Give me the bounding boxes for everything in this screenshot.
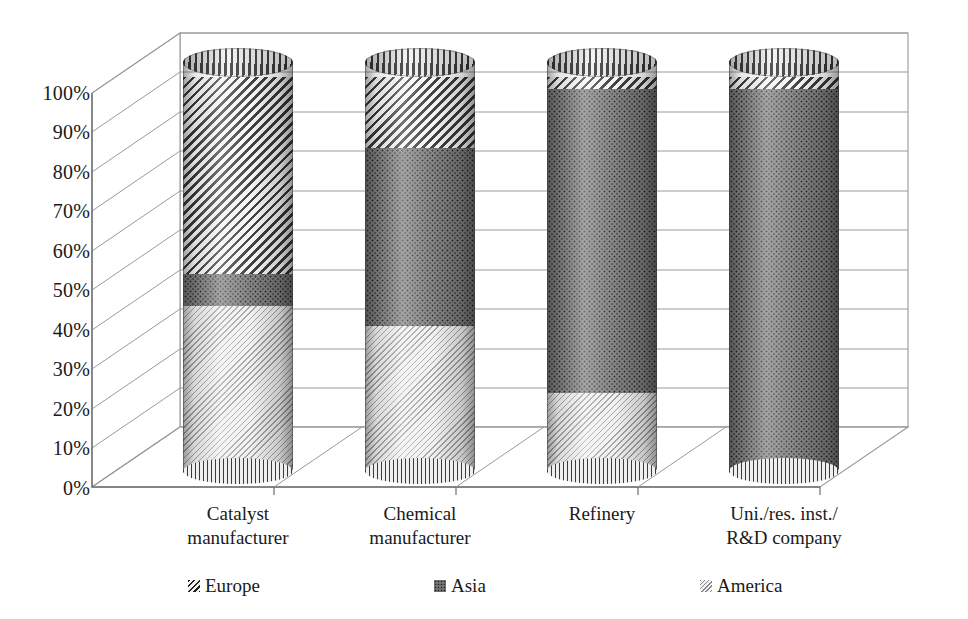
segment-catalyst-europe xyxy=(183,77,293,274)
y-tick-50: 50% xyxy=(18,280,90,300)
segment-chemical-asia xyxy=(365,148,475,326)
cylinder-top-cap-europe xyxy=(183,48,293,77)
cylinder-top-cap-europe xyxy=(547,48,657,77)
bar-chemical-manufacturer[interactable] xyxy=(365,62,475,472)
legend-label-asia: Asia xyxy=(451,575,486,597)
chart-legend: Europe Asia America xyxy=(0,572,968,604)
x-label-line1: Uni./res. inst./ xyxy=(656,502,912,526)
y-tick-70: 70% xyxy=(18,201,90,221)
legend-label-europe: Europe xyxy=(205,575,260,597)
x-axis-label-university-research-institute: Uni./res. inst./ R&D company xyxy=(656,502,912,550)
y-tick-40: 40% xyxy=(18,320,90,340)
america-swatch-icon xyxy=(700,580,712,592)
bar-refinery[interactable] xyxy=(547,62,657,472)
segment-uni-europe xyxy=(729,77,839,89)
y-tick-10: 10% xyxy=(18,438,90,458)
chart-figure: 100% 90% 80% 70% 60% 50% 40% 30% 20% 10%… xyxy=(0,0,968,619)
cylinder-bottom-cap xyxy=(547,458,657,484)
x-label-line2: manufacturer xyxy=(292,526,548,550)
y-tick-60: 60% xyxy=(18,241,90,261)
segment-refinery-europe xyxy=(547,77,657,89)
segment-chemical-europe xyxy=(365,77,475,148)
y-axis-tick-labels: 100% 90% 80% 70% 60% 50% 40% 30% 20% 10%… xyxy=(10,0,90,560)
segment-uni-asia xyxy=(729,89,839,472)
legend-item-asia[interactable]: Asia xyxy=(434,575,486,597)
cylinder-bottom-cap xyxy=(183,458,293,484)
asia-swatch-icon xyxy=(434,580,446,592)
segment-catalyst-asia xyxy=(183,274,293,306)
x-label-line2: R&D company xyxy=(656,526,912,550)
y-tick-30: 30% xyxy=(18,359,90,379)
legend-item-america[interactable]: America xyxy=(700,575,782,597)
segment-chemical-america xyxy=(365,326,475,472)
y-tick-0: 0% xyxy=(18,478,90,498)
cylinder-bottom-cap xyxy=(365,458,475,484)
cylinder-top-cap-europe xyxy=(365,48,475,77)
legend-item-europe[interactable]: Europe xyxy=(188,575,260,597)
cylinder-top-cap-europe xyxy=(729,48,839,77)
europe-swatch-icon xyxy=(188,580,200,592)
segment-catalyst-america xyxy=(183,306,293,472)
y-tick-100: 100% xyxy=(18,83,90,103)
y-tick-80: 80% xyxy=(18,162,90,182)
cylinder-bottom-cap xyxy=(729,458,839,484)
bar-catalyst-manufacturer[interactable] xyxy=(183,62,293,472)
legend-label-america: America xyxy=(717,575,782,597)
y-tick-20: 20% xyxy=(18,399,90,419)
bar-university-research-institute[interactable] xyxy=(729,62,839,472)
y-tick-90: 90% xyxy=(18,122,90,142)
segment-refinery-asia xyxy=(547,89,657,393)
